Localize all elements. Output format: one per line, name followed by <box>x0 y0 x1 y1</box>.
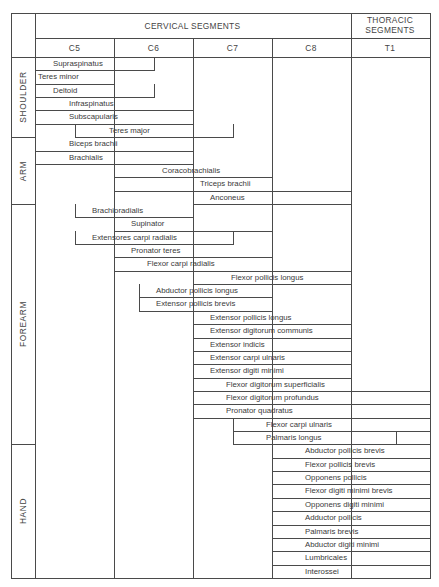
muscle-bar: Pronator teres <box>114 244 273 258</box>
muscle-bar: Brachioradialis <box>75 204 194 218</box>
muscle-name: Extensor digitorum communis <box>210 325 313 337</box>
muscle-name: Extensor pollicis brevis <box>156 298 235 310</box>
muscle-name: Brachialis <box>69 152 103 164</box>
muscle-bar: Flexor carpi radialis <box>114 257 352 272</box>
region-label-forearm: FOREARM <box>18 284 28 364</box>
muscle-bar: Subscapularis <box>35 110 194 125</box>
muscle-bar: Extensor indicis <box>193 338 352 352</box>
muscle-name: Palmaris brevis <box>305 526 358 538</box>
muscle-name: Lumbricales <box>305 552 347 564</box>
table-border-top <box>11 13 431 14</box>
muscle-name: Infraspinatus <box>69 98 114 110</box>
region-label-shoulder: SHOULDER <box>18 57 28 137</box>
muscle-bar: Opponens pollicis <box>272 471 431 485</box>
muscle-bar: Teres minor <box>35 70 115 85</box>
muscle-name: Opponens digiti minimi <box>305 499 384 511</box>
muscle-name: Triceps brachii <box>200 178 250 190</box>
thoracic-title-line1: THORACIC <box>350 15 430 25</box>
muscle-name: Flexor digitorum profundus <box>226 392 319 404</box>
muscle-bar: Extensor digitorum communis <box>193 324 352 339</box>
muscle-bar: Abductor pollicis brevis <box>272 444 431 459</box>
muscle-name: Teres minor <box>38 71 79 83</box>
header-divider <box>35 38 431 39</box>
muscle-bar: Brachialis <box>35 151 194 165</box>
muscle-bar: Anconeus <box>193 191 352 205</box>
muscle-bar: Palmaris longus <box>233 431 431 445</box>
muscle-name: Flexor carpi ulnaris <box>266 419 332 431</box>
muscle-bar: Flexor digitorum profundus <box>193 391 431 405</box>
column-header-c5: C5 <box>35 43 114 53</box>
muscle-name: Opponens pollicis <box>305 472 367 484</box>
muscle-name: Pronator teres <box>131 245 180 257</box>
muscle-bar: Extensor pollicis longus <box>193 311 352 325</box>
muscle-name: Flexor pollicis longus <box>231 272 303 284</box>
muscle-name: Extensor digiti minimi <box>210 365 284 377</box>
region-label-arm: ARM <box>18 131 28 211</box>
bar-divider <box>396 431 397 444</box>
muscle-bar: Lumbricales <box>272 551 431 566</box>
column-header-c7: C7 <box>193 43 272 53</box>
muscle-name: Adductor pollicis <box>305 512 362 524</box>
muscle-bar: Interossei <box>272 565 431 579</box>
muscle-bar: Supraspinatus <box>35 57 155 71</box>
muscle-bar: Flexor carpi ulnaris <box>233 418 431 432</box>
table-border-left <box>11 13 12 579</box>
region-label-hand: HAND <box>18 471 28 551</box>
muscle-name: Flexor digitorum superficialis <box>226 379 325 391</box>
muscle-name: Teres major <box>109 125 150 137</box>
muscle-bar: Coracobrachialis <box>114 164 273 178</box>
muscle-name: Flexor digiti minimi brevis <box>305 485 393 497</box>
muscle-name: Pronator quadratus <box>226 405 293 417</box>
muscle-name: Anconeus <box>210 192 245 204</box>
column-header-c8: C8 <box>272 43 350 53</box>
muscle-name: Extensor indicis <box>210 339 265 351</box>
muscle-name: Extensor pollicis longus <box>210 312 291 324</box>
muscle-bar: Biceps brachii <box>35 137 194 152</box>
muscle-name: Biceps brachii <box>69 138 118 150</box>
muscle-bar: Pronator quadratus <box>193 404 431 419</box>
muscle-name: Extensor carpi ulnaris <box>210 352 285 364</box>
muscle-name: Subscapularis <box>69 111 118 123</box>
muscle-bar: Adductor pollicis <box>272 511 431 526</box>
muscle-bar: Flexor digitorum superficialis <box>193 378 431 392</box>
muscle-name: Brachioradialis <box>92 205 143 217</box>
muscle-bar: Extensor digiti minimi <box>193 364 352 379</box>
muscle-name: Palmaris longus <box>266 432 321 444</box>
muscle-bar: Abductor digiti minimi <box>272 538 431 552</box>
muscle-name: Supraspinatus <box>53 58 103 70</box>
muscle-bar: Triceps brachii <box>114 177 352 192</box>
muscle-name: Extensores carpi radialis <box>92 232 177 244</box>
muscle-bar: Deltoid <box>35 84 155 98</box>
muscle-bar: Palmaris brevis <box>272 525 431 539</box>
muscle-bar: Extensor pollicis brevis <box>139 297 273 312</box>
thoracic-segments-title: THORACIC SEGMENTS <box>350 15 430 35</box>
muscle-name: Coracobrachialis <box>162 165 220 177</box>
muscle-name: Supinator <box>131 218 164 230</box>
muscle-bar: Supinator <box>114 217 273 232</box>
muscle-name: Flexor carpi radialis <box>147 258 215 270</box>
muscle-bar: Infraspinatus <box>35 97 194 111</box>
muscle-bar: Abductor pollicis longus <box>139 284 273 298</box>
muscle-bar: Flexor digiti minimi brevis <box>272 484 431 499</box>
region-divider <box>11 444 36 445</box>
muscle-bar: Extensores carpi radialis <box>75 231 234 245</box>
muscle-name: Deltoid <box>53 85 77 97</box>
column-header-c6: C6 <box>114 43 193 53</box>
muscle-name: Abductor digiti minimi <box>305 539 379 551</box>
muscle-name: Interossei <box>305 566 339 578</box>
muscle-name: Abductor pollicis brevis <box>305 445 385 457</box>
innervation-chart: CERVICAL SEGMENTS THORACIC SEGMENTS C5 C… <box>0 0 439 587</box>
column-header-t1: T1 <box>350 43 430 53</box>
muscle-name: Abductor pollicis longus <box>156 285 238 297</box>
cervical-segments-title: CERVICAL SEGMENTS <box>35 21 350 31</box>
muscle-bar: Teres major <box>75 124 234 138</box>
muscle-bar: Opponens digiti minimi <box>272 498 431 512</box>
muscle-name: Flexor pollicis brevis <box>305 459 375 471</box>
thoracic-title-line2: SEGMENTS <box>350 25 430 35</box>
muscle-bar: Flexor pollicis longus <box>193 271 352 285</box>
muscle-bar: Flexor pollicis brevis <box>272 458 431 472</box>
muscle-bar: Extensor carpi ulnaris <box>193 351 352 365</box>
